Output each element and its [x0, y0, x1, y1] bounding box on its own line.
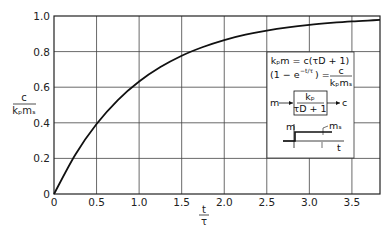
x-tick-label: 2.5: [258, 196, 275, 208]
chart: 00.51.01.52.02.53.03.5 00.20.40.60.81.0 …: [0, 0, 391, 233]
y-tick-label: 0.2: [33, 152, 50, 164]
y-tick-label: 0.4: [33, 117, 50, 129]
x-tick-label: 0.5: [88, 196, 105, 208]
block-input-label: m: [270, 97, 279, 108]
y-tick-label: 0.8: [33, 46, 50, 58]
inset-annotation: kₚm = c(τD + 1) (1 − e −t/τ ) = c kₚmₛ m…: [267, 52, 354, 158]
inset-equation-2-exponent: −t/τ: [300, 67, 313, 74]
inset-equation-2-right: ) =: [315, 69, 330, 80]
y-tick-labels: 00.20.40.60.81.0: [33, 10, 50, 200]
x-tick-label: 1.5: [173, 196, 190, 208]
y-tick-label: 0: [43, 188, 50, 200]
step-level-label: mₛ: [329, 120, 342, 131]
inset-equation-2-left: (1 − e: [270, 69, 300, 80]
x-tick-label: 3.0: [301, 196, 318, 208]
block-numerator: kₚ: [305, 91, 315, 102]
step-x-label: t: [337, 142, 341, 153]
y-label-denominator: kₚmₛ: [12, 105, 36, 116]
x-label-numerator: t: [202, 204, 206, 215]
x-tick-label: 3.5: [344, 196, 361, 208]
inset-equation-2-den: kₚmₛ: [330, 77, 353, 88]
y-tick-label: 1.0: [33, 10, 50, 22]
x-tick-label: 0: [51, 196, 58, 208]
x-label-denominator: τ: [201, 216, 207, 227]
y-tick-label: 0.6: [33, 81, 50, 93]
x-tick-label: 2.0: [216, 196, 233, 208]
x-tick-label: 1.0: [131, 196, 148, 208]
block-output-label: c: [342, 97, 347, 108]
inset-equation-2-num: c: [338, 65, 343, 76]
y-label-numerator: c: [21, 92, 27, 103]
block-denominator: τD + 1: [293, 103, 326, 114]
